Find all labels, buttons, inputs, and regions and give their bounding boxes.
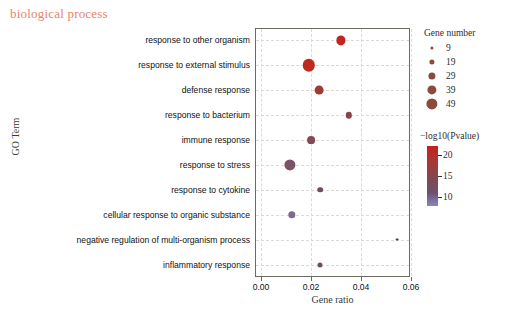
y-tick-label: defense response: [182, 85, 250, 95]
y-tick-label: response to external stimulus: [138, 60, 250, 70]
grid-line-horizontal: [256, 240, 409, 241]
data-point[interactable]: [284, 159, 295, 170]
y-tick-label: cellular response to organic substance: [103, 210, 250, 220]
size-legend-dot: [427, 85, 436, 94]
data-point[interactable]: [318, 262, 323, 267]
color-bar-tick: [438, 197, 442, 198]
y-axis-title: GO Term: [10, 102, 21, 172]
data-point[interactable]: [336, 36, 345, 45]
grid-line-vertical: [361, 29, 362, 276]
size-legend-label: 29: [446, 71, 456, 81]
size-legend-label: 19: [446, 57, 456, 67]
grid-line-horizontal: [256, 115, 409, 116]
x-tick-label: 0.02: [303, 282, 320, 292]
size-legend-label: 39: [446, 85, 456, 95]
chart-root: biological process GO Term response to o…: [0, 0, 507, 319]
grid-line-horizontal: [256, 40, 409, 41]
data-point[interactable]: [345, 112, 351, 118]
data-point[interactable]: [307, 136, 315, 144]
y-tick-label: response to cytokine: [171, 185, 250, 195]
grid-line-horizontal: [256, 190, 409, 191]
size-legend-label: 9: [446, 43, 451, 53]
color-bar-label: 15: [443, 171, 453, 181]
grid-line-horizontal: [256, 140, 409, 141]
data-point[interactable]: [315, 86, 324, 95]
color-bar-label: 10: [443, 192, 453, 202]
y-tick-label: immune response: [182, 135, 250, 145]
x-tick-mark: [411, 277, 412, 281]
size-legend-title: Gene number: [424, 28, 475, 38]
x-tick-label: 0.00: [253, 282, 270, 292]
size-legend-dot: [426, 98, 437, 109]
size-legend-dot: [428, 72, 435, 79]
color-bar: [427, 146, 438, 206]
grid-line-horizontal: [256, 65, 409, 66]
color-bar-label: 20: [443, 150, 453, 160]
color-bar-tick: [438, 176, 442, 177]
grid-line-horizontal: [256, 90, 409, 91]
size-legend-dot: [429, 59, 434, 64]
x-axis-title: Gene ratio: [255, 294, 410, 305]
grid-line-horizontal: [256, 215, 409, 216]
size-legend-label: 49: [446, 99, 456, 109]
data-point[interactable]: [317, 187, 323, 193]
size-legend-dot: [430, 46, 433, 49]
grid-line-horizontal: [256, 265, 409, 266]
x-tick-label: 0.06: [403, 282, 420, 292]
data-point[interactable]: [396, 238, 399, 241]
data-point[interactable]: [288, 211, 295, 218]
y-tick-label: response to bacterium: [165, 110, 250, 120]
color-legend-title: −log10(Pvalue): [420, 131, 479, 141]
plot-area: [255, 28, 410, 277]
x-tick-label: 0.04: [353, 282, 370, 292]
x-tick-mark: [311, 277, 312, 281]
grid-line-vertical: [411, 29, 412, 276]
panel-title: biological process: [10, 6, 108, 22]
y-tick-label: response to stress: [180, 160, 250, 170]
x-tick-mark: [261, 277, 262, 281]
grid-line-horizontal: [256, 165, 409, 166]
color-bar-tick: [438, 155, 442, 156]
x-tick-mark: [361, 277, 362, 281]
grid-line-vertical: [261, 29, 262, 276]
data-point[interactable]: [303, 59, 315, 71]
y-tick-label: inflammatory response: [163, 260, 250, 270]
y-tick-label: response to other organism: [145, 35, 250, 45]
y-tick-label: negative regulation of multi-organism pr…: [77, 235, 250, 245]
